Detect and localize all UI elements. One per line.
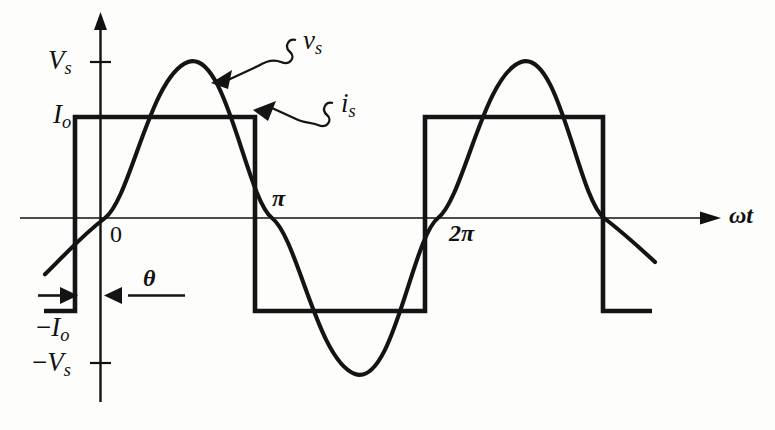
y-axis-label-vs: Vs (48, 47, 72, 78)
source-current-square-wave (44, 117, 652, 311)
curve-label-vs: vs (303, 27, 322, 58)
is-leader-squiggle (272, 103, 333, 126)
x-axis-label: ωt (729, 203, 753, 227)
figure-canvas: Vs Io −Io −Vs 0 π 2π ωt vs is θ (0, 0, 775, 430)
theta-dimension-group (38, 287, 185, 304)
y-axis-arrowhead (94, 12, 107, 30)
vs-leader-group (211, 40, 296, 89)
is-leader-group (253, 101, 333, 126)
y-axis-label-neg-io: −Io (36, 314, 69, 345)
x-axis-arrowhead (700, 212, 721, 225)
axes-group (20, 12, 721, 402)
x-tick-label-pi: π (272, 186, 285, 210)
theta-right-arrowhead (104, 287, 122, 304)
curve-label-is: is (341, 90, 356, 121)
vs-leader-squiggle (228, 40, 296, 80)
origin-label: 0 (110, 222, 122, 246)
y-axis-label-neg-vs: −Vs (32, 349, 71, 380)
x-tick-label-2pi: 2π (449, 221, 474, 245)
y-axis-label-io: Io (53, 101, 71, 132)
waveform-svg (0, 0, 775, 430)
theta-label: θ (143, 266, 155, 290)
